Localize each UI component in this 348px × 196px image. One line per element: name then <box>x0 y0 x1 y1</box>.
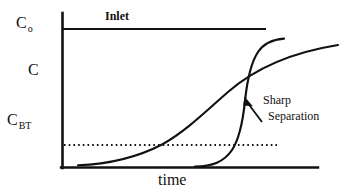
gradual-breakthrough-curve <box>78 45 338 165</box>
plot-canvas <box>0 0 348 196</box>
axis-label-c-bt: CBT <box>7 112 30 128</box>
axis-label-c: C <box>28 62 39 78</box>
axis-label-c-bt-base: C <box>7 111 18 128</box>
axis-label-c-zero-base: C <box>16 14 27 31</box>
sharp-separation-label-line2: Separation <box>268 110 319 122</box>
sharp-separation-arrow-head <box>243 97 253 107</box>
inlet-line-label: Inlet <box>105 10 129 22</box>
breakthrough-curve-figure: Co C CBT Inlet time Sharp Separation <box>0 0 348 196</box>
axis-label-c-zero: Co <box>16 15 32 31</box>
x-axis-label-time: time <box>158 172 186 188</box>
sharp-separation-label-line1: Sharp <box>263 94 291 106</box>
axis-label-c-bt-subscript: BT <box>19 120 32 131</box>
axis-label-c-zero-subscript: o <box>28 23 33 34</box>
